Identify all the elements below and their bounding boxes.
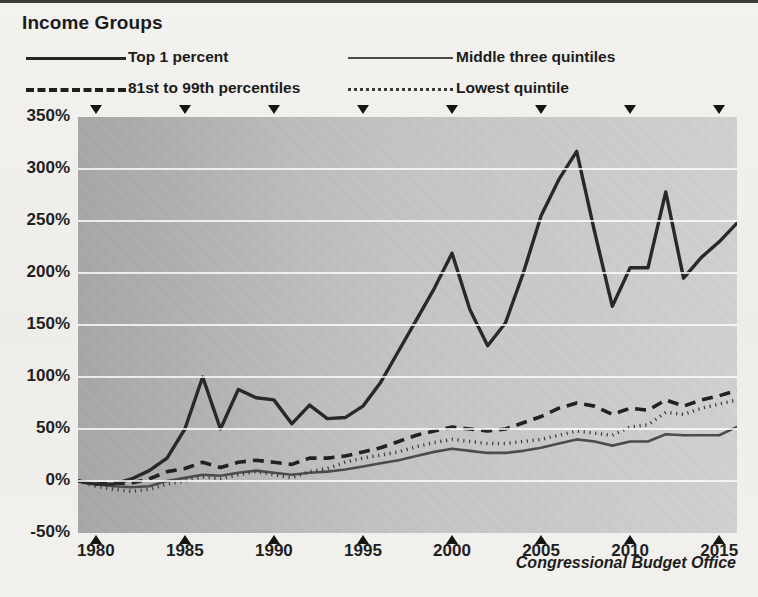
tick-marker-top — [713, 105, 725, 114]
series-line-81st-to-99th-percentiles — [78, 391, 737, 485]
series-line-middle-three-quintiles — [78, 427, 737, 487]
tick-marker-top — [90, 105, 102, 114]
chart-title: Income Groups — [22, 12, 163, 34]
x-axis-tick-label: 1985 — [155, 541, 215, 561]
y-axis-tick-label: 350% — [2, 106, 70, 126]
tick-marker-top — [535, 105, 547, 114]
gridline — [78, 480, 737, 482]
series-line-top-1-percent — [78, 151, 737, 484]
gridline — [78, 428, 737, 430]
x-axis-tick-label: 1980 — [66, 541, 126, 561]
legend-label-81st-to-99th-percentiles: 81st to 99th percentiles — [128, 79, 300, 97]
tick-marker-bottom — [446, 535, 458, 544]
x-axis-tick-label: 2000 — [422, 541, 482, 561]
y-axis-tick-label: 50% — [2, 418, 70, 438]
gridline — [78, 324, 737, 326]
plot-area — [78, 117, 737, 533]
gridline — [78, 376, 737, 378]
tick-marker-top — [357, 105, 369, 114]
legend-swatch-top-1-percent — [26, 57, 126, 60]
tick-marker-top — [446, 105, 458, 114]
y-axis-tick-label: 200% — [2, 262, 70, 282]
legend-swatch-middle-three-quintiles — [348, 57, 453, 59]
y-axis-tick-label: -50% — [2, 522, 70, 542]
y-axis-tick-label: 100% — [2, 366, 70, 386]
legend-label-middle-three-quintiles: Middle three quintiles — [456, 48, 615, 66]
top-rule — [0, 0, 758, 3]
y-axis-tick-label: 0% — [2, 470, 70, 490]
series-line-lowest-quintile — [78, 400, 737, 492]
gridline — [78, 272, 737, 274]
tick-marker-bottom — [179, 535, 191, 544]
x-axis-tick-label: 1995 — [333, 541, 393, 561]
legend-label-top-1-percent: Top 1 percent — [128, 48, 228, 66]
tick-marker-bottom — [268, 535, 280, 544]
tick-marker-top — [179, 105, 191, 114]
y-axis-tick-label: 250% — [2, 210, 70, 230]
legend-swatch-81st-to-99th-percentiles — [26, 88, 126, 92]
tick-marker-bottom — [90, 535, 102, 544]
gridline — [78, 220, 737, 222]
y-axis-tick-label: 150% — [2, 314, 70, 334]
legend-label-lowest-quintile: Lowest quintile — [456, 79, 569, 97]
x-axis-tick-label: 1990 — [244, 541, 304, 561]
y-axis-tick-label: 300% — [2, 158, 70, 178]
legend-swatch-lowest-quintile — [348, 88, 453, 91]
tick-marker-bottom — [624, 535, 636, 544]
tick-marker-top — [268, 105, 280, 114]
source-credit: Congressional Budget Office — [516, 554, 736, 572]
tick-marker-bottom — [357, 535, 369, 544]
gridline — [78, 168, 737, 170]
tick-marker-top — [624, 105, 636, 114]
tick-marker-bottom — [535, 535, 547, 544]
tick-marker-bottom — [713, 535, 725, 544]
